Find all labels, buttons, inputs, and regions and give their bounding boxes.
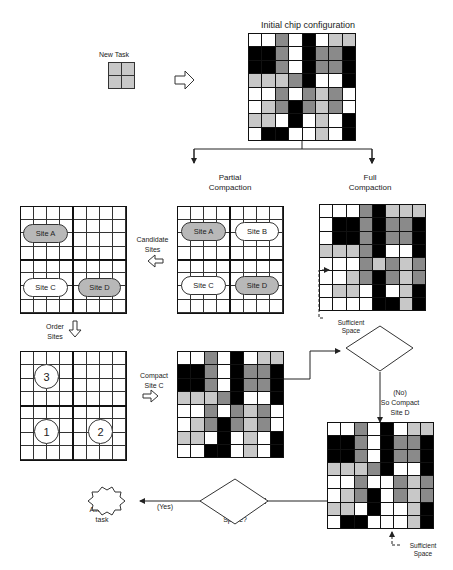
arrow-down-icon <box>69 321 81 337</box>
allocate-task-starburst <box>88 487 125 515</box>
arrow-left-icon <box>148 255 163 267</box>
decision-diamond-2 <box>200 479 268 524</box>
flow-connectors <box>0 0 453 570</box>
arrow-right-icon <box>175 71 194 89</box>
arrow-right-icon <box>143 390 158 402</box>
decision-diamond-1 <box>346 326 413 371</box>
